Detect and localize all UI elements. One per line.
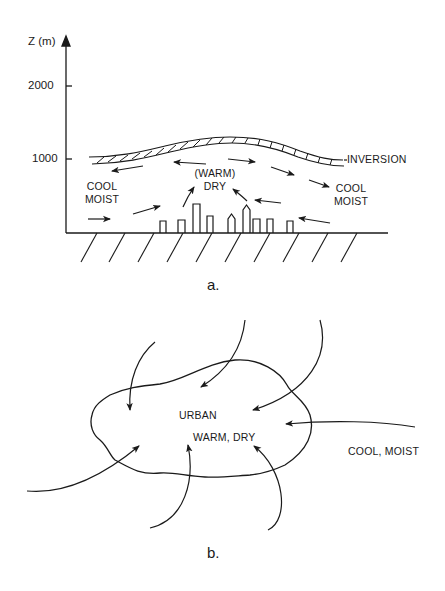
caption-a: a. — [207, 277, 220, 292]
diagram-drawing — [0, 0, 445, 591]
z-axis-label: Z (m) — [28, 36, 55, 48]
left-cool-label: COOL — [82, 181, 122, 192]
right-moist-label: MOIST — [329, 196, 373, 207]
tick-label-2000: 2000 — [28, 80, 54, 92]
inversion-label: INVERSION — [347, 154, 407, 165]
urban-condition-label: WARM, DRY — [193, 432, 255, 443]
tick-label-1000: 1000 — [32, 153, 58, 165]
airflow-arrows-b — [27, 320, 415, 530]
urban-heat-island-diagram: Z (m) 2000 1000 INVERSION COOL MOIST (WA… — [0, 0, 445, 591]
outside-condition-label: COOL, MOIST — [348, 446, 419, 457]
caption-b: b. — [207, 545, 220, 560]
z-axis — [62, 36, 72, 233]
center-warm-label: (WARM) — [190, 168, 240, 179]
urban-label: URBAN — [179, 410, 217, 421]
inversion-layer — [89, 137, 347, 166]
left-moist-label: MOIST — [80, 194, 124, 205]
ground-hatching — [81, 233, 357, 262]
right-cool-label: COOL — [331, 183, 371, 194]
center-dry-label: DRY — [195, 181, 235, 192]
city-buildings — [160, 204, 293, 233]
